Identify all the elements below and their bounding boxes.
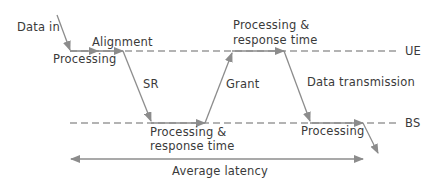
grant-label: Grant [226, 78, 259, 91]
ue-lane-label: UE [405, 45, 421, 58]
bs-lane-label: BS [405, 117, 420, 130]
diagram-canvas [0, 0, 433, 184]
data-in-label: Data in [17, 21, 60, 34]
output-arrow [363, 123, 378, 153]
bs-processing-label: Processing [301, 125, 364, 138]
ue-processing-response-label-1: Processing & [233, 19, 309, 32]
sr-label: SR [143, 78, 159, 91]
data-transmission-label: Data transmission [307, 76, 415, 89]
bs-processing-response-label-1: Processing & [150, 126, 226, 139]
ue-processing-label: Processing [53, 53, 116, 66]
average-latency-label: Average latency [172, 165, 268, 178]
latency-diagram: Data in Alignment Processing SR Processi… [0, 0, 433, 184]
bs-processing-response-label-2: response time [150, 140, 234, 153]
ue-processing-response-label-2: response time [233, 34, 317, 47]
alignment-label: Alignment [92, 36, 153, 49]
